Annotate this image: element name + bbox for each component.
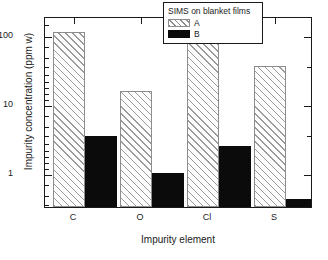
y-minor-tick [45,94,49,95]
y-minor-tick [45,144,49,145]
chart-figure: Impurity concentration (ppm w) 100 10 1 … [0,0,328,260]
y-minor-tick [45,169,49,170]
y-minor-tick [45,88,49,89]
legend-entry-a: A [168,18,258,28]
y-minor-tick [45,151,49,152]
y-minor-tick [45,185,49,186]
legend-entry-b: B [168,29,258,39]
y-minor-tick [45,196,49,197]
bar-a-o [120,91,152,207]
y-minor-tick [45,82,49,83]
y-minor-tick [45,157,49,158]
x-tick-label-s: S [254,212,294,222]
y-axis-title: Impurity concentration (ppm w) [23,2,34,202]
bar-b-s [286,199,312,207]
bar-a-cl [187,17,219,207]
y-minor-tick [45,47,49,48]
y-minor-tick [45,25,49,26]
x-tick-label-c: C [53,212,93,222]
chart-legend: SIMS on blanket films A B [163,2,263,44]
bar-b-cl [219,146,251,207]
x-axis-title: Impurity element [44,234,312,245]
y-major-tick-right [304,37,311,38]
y-minor-tick-right [307,136,311,137]
y-minor-tick [45,163,49,164]
y-tick-label-100: 100 [0,31,13,40]
y-major-tick-right [304,106,311,107]
y-major-tick-right [304,175,311,176]
legend-label-a: A [194,19,200,28]
x-tick-top-s [275,18,276,24]
legend-swatch-a [168,19,190,27]
y-minor-tick [45,205,49,206]
y-minor-tick [45,75,49,76]
y-minor-tick-right [307,67,311,68]
legend-label-b: B [194,30,200,39]
y-minor-tick [45,136,49,137]
plot-area [44,17,312,208]
y-minor-tick [45,58,49,59]
bar-a-c [53,32,85,207]
x-tick-label-cl: Cl [187,212,227,222]
y-minor-tick [45,17,49,18]
bar-b-c [85,136,117,207]
legend-swatch-b [168,30,190,38]
bar-a-s [254,66,286,207]
bar-b-o [152,173,184,207]
y-minor-tick [45,100,49,101]
y-major-tick-100 [45,37,52,38]
y-major-tick-1 [45,175,52,176]
x-tick-label-o: O [120,212,160,222]
y-tick-label-1: 1 [0,169,13,178]
legend-title: SIMS on blanket films [168,6,258,16]
y-minor-tick [45,67,49,68]
y-tick-label-10: 10 [0,100,13,109]
y-minor-tick [45,127,49,128]
y-minor-tick [45,116,49,117]
x-tick-top-c [74,18,75,24]
x-tick-top-o [141,18,142,24]
y-major-tick-10 [45,106,52,107]
